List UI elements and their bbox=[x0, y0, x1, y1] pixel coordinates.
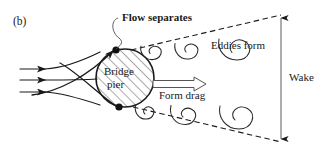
inflow-streamline-top-tail bbox=[45, 52, 100, 69]
flow-separates-label: Flow separates bbox=[122, 12, 192, 24]
wake-boundary-lower bbox=[133, 107, 281, 142]
flow-separates-leader-line bbox=[113, 18, 122, 49]
inflow-streamline-mid-tail bbox=[45, 79, 97, 80]
form-drag-label: Form drag bbox=[159, 90, 205, 102]
bridge-pier-label-line2: pier bbox=[107, 79, 124, 91]
eddy-lower-1 bbox=[135, 106, 154, 120]
panel-label: (b) bbox=[13, 15, 26, 27]
lower-separation-point bbox=[115, 103, 122, 110]
eddies-form-label: Eddies form bbox=[211, 40, 265, 52]
wake-label: Wake bbox=[289, 72, 314, 84]
figure-panel-b: (b) Flow separates Eddies form Bridge pi… bbox=[0, 0, 327, 165]
upper-separation-point bbox=[112, 46, 119, 53]
eddy-upper-2 bbox=[175, 44, 198, 60]
inflow-streamline-bottom-tail bbox=[45, 92, 100, 105]
flow-separation-diagram bbox=[0, 0, 327, 165]
eddy-lower-3 bbox=[220, 106, 253, 129]
eddies-lower bbox=[135, 106, 252, 130]
inflow-streamlines bbox=[20, 52, 100, 105]
bridge-pier-label-line1: Bridge bbox=[104, 66, 134, 78]
eddy-lower-2 bbox=[170, 106, 195, 125]
flow-separates-leader bbox=[113, 18, 122, 49]
